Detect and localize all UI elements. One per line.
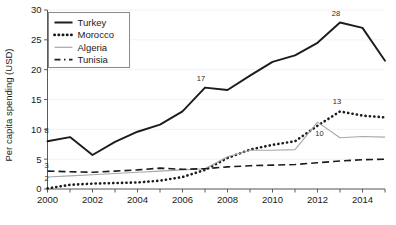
x-tick-label: 2010	[262, 194, 283, 205]
data-point-label: 13	[333, 97, 341, 106]
y-tick-label: 5	[36, 154, 41, 165]
legend: TurkeyMoroccoAlgeriaTunisia	[49, 13, 130, 68]
y-axis-label: Per capita spending (USD)	[3, 49, 14, 162]
x-tick-label: 2008	[217, 194, 238, 205]
axis-title-y: Per capita spending (USD)	[3, 49, 14, 162]
series-line-morocco	[48, 111, 386, 188]
legend-label-morocco[interactable]: Morocco	[78, 29, 114, 40]
x-tick-label: 2006	[172, 194, 193, 205]
x-tick-label: 2014	[352, 194, 373, 205]
x-axis: 20002002200420062008201020122014	[37, 189, 385, 205]
x-tick-label: 2002	[82, 194, 103, 205]
x-tick-label: 2012	[307, 194, 328, 205]
legend-label-tunisia[interactable]: Tunisia	[78, 54, 109, 65]
legend-label-algeria[interactable]: Algeria	[78, 42, 108, 53]
series-line-algeria	[48, 122, 386, 177]
data-point-label: 2	[44, 174, 48, 183]
data-point-label: 8	[44, 126, 48, 135]
chart-container: 051015202530 200020022004200620082010201…	[0, 0, 396, 225]
y-tick-label: 25	[31, 34, 42, 45]
x-tick-label: 2004	[127, 194, 148, 205]
y-tick-label: 15	[31, 94, 42, 105]
line-chart: 051015202530 200020022004200620082010201…	[0, 0, 396, 225]
y-tick-label: 10	[31, 124, 42, 135]
data-point-label: 28	[332, 9, 340, 18]
y-tick-label: 0	[36, 183, 41, 194]
legend-label-turkey[interactable]: Turkey	[78, 17, 107, 28]
y-tick-label: 30	[31, 4, 42, 15]
data-point-label: 3	[44, 161, 48, 170]
data-point-label: 17	[197, 74, 205, 83]
series-line-tunisia	[48, 159, 386, 172]
y-tick-label: 20	[31, 64, 42, 75]
x-tick-label: 2000	[37, 194, 58, 205]
data-point-label: 10	[315, 129, 323, 138]
